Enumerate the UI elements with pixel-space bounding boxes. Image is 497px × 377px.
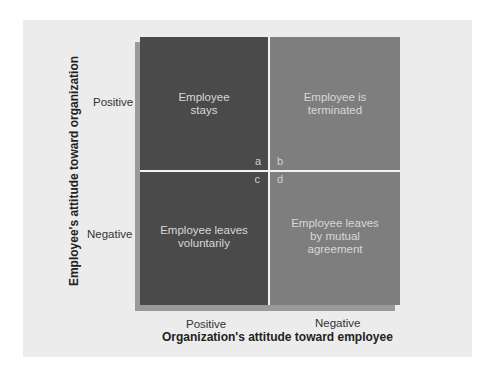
quadrant-d-line3: agreement bbox=[270, 243, 400, 256]
quadrant-d-line2: by mutual bbox=[270, 230, 400, 243]
y-axis-title: Employee's attitude toward organization bbox=[67, 56, 81, 286]
x-label-negative: Negative bbox=[315, 317, 360, 329]
quadrant-c: c Employee leaves voluntarily bbox=[140, 172, 268, 305]
quadrant-d-letter: d bbox=[277, 173, 283, 186]
quadrant-d: d Employee leaves by mutual agreement bbox=[270, 172, 400, 305]
quadrant-c-letter: c bbox=[255, 173, 261, 186]
y-label-positive: Positive bbox=[93, 96, 133, 108]
quadrant-b-line2: terminated bbox=[270, 104, 400, 117]
y-label-negative: Negative bbox=[87, 228, 132, 240]
x-axis-title: Organization's attitude toward employee bbox=[162, 330, 393, 344]
horizontal-divider bbox=[140, 170, 400, 172]
x-label-positive: Positive bbox=[186, 318, 226, 330]
quadrant-matrix: Employee stays a Employee is terminated … bbox=[140, 37, 400, 305]
quadrant-a-letter: a bbox=[255, 155, 261, 168]
quadrant-a: Employee stays a bbox=[140, 37, 268, 170]
quadrant-a-line2: stays bbox=[140, 104, 268, 117]
quadrant-b-line1: Employee is bbox=[270, 91, 400, 104]
quadrant-b-letter: b bbox=[277, 155, 283, 168]
quadrant-d-line1: Employee leaves bbox=[270, 217, 400, 230]
quadrant-c-line1: Employee leaves bbox=[140, 224, 268, 237]
quadrant-a-line1: Employee bbox=[140, 91, 268, 104]
quadrant-c-line2: voluntarily bbox=[140, 237, 268, 250]
quadrant-b: Employee is terminated b bbox=[270, 37, 400, 170]
